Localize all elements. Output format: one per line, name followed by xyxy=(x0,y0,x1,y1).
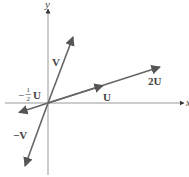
vector-u xyxy=(48,86,103,104)
svg-text:2: 2 xyxy=(27,95,31,103)
svg-text:U: U xyxy=(33,89,41,101)
svg-text:−: − xyxy=(18,89,24,101)
y-axis-label: y xyxy=(44,0,50,10)
label-v: V xyxy=(52,56,60,68)
label-neg-half-u: − 1 2 U xyxy=(18,86,41,103)
svg-text:1: 1 xyxy=(27,86,31,94)
vector-v xyxy=(48,37,73,103)
vector-diagram: y x V −V U 2U − 1 2 U xyxy=(0,0,189,177)
label-2u: 2U xyxy=(148,75,162,87)
label-u: U xyxy=(103,91,111,103)
vector-neg-v xyxy=(25,103,48,166)
label-neg-v: −V xyxy=(13,129,27,141)
x-axis-label: x xyxy=(185,97,189,108)
vector-neg-half-u xyxy=(19,103,48,113)
